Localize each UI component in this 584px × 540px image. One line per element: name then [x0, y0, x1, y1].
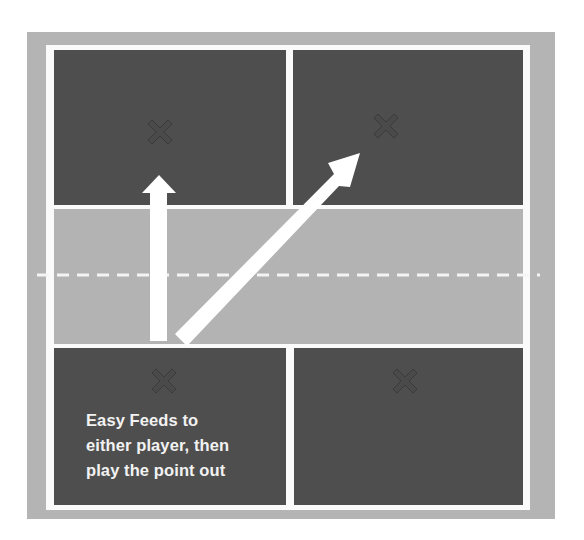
player-marker-icon — [148, 120, 172, 144]
crosscourt-feed-arrow-icon — [175, 153, 360, 346]
caption-line: either player, then — [86, 433, 286, 458]
player-marker-icon — [374, 114, 398, 138]
straight-feed-arrow-icon — [142, 175, 176, 341]
caption-line: play the point out — [86, 458, 286, 483]
drill-caption: Easy Feeds to either player, then play t… — [86, 408, 286, 483]
caption-line: Easy Feeds to — [86, 408, 286, 433]
player-marker-icon — [393, 369, 417, 393]
player-marker-icon — [152, 369, 176, 393]
